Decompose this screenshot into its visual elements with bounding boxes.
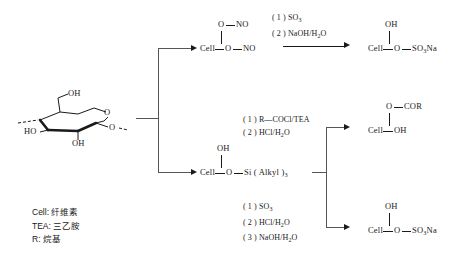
sulfate2-bond-o-so3na (402, 231, 411, 232)
cellulose-ester-product: O COR Cell OH (368, 102, 452, 138)
ester-cell-label: Cell (368, 126, 383, 135)
sulfate2-chain-o: O (394, 226, 400, 235)
sulfation-reagent-3: ( 3 ) NaOH/H2O (243, 231, 297, 247)
silyl-branch-bottom-arm (326, 227, 345, 228)
legend-item-cell: Cell: 纤维素 (32, 206, 80, 220)
branch-stem (158, 48, 159, 172)
arrowhead-to-ester (344, 124, 350, 130)
arrowhead-to-sulfate-top (344, 42, 350, 48)
branch-top-arm (158, 48, 192, 49)
nitration-reagents: ( 1 ) SO3 ( 2 ) NaOH/H2O (272, 11, 326, 42)
legend: Cell: 纤维素 TEA: 三乙胺 R: 烷基 (32, 206, 80, 247)
sulfation-reagent-1-num: ( 1 ) (243, 202, 257, 211)
acylation-reagent-2-num: ( 2 ) (243, 128, 257, 137)
nitrate-top-o: O (218, 20, 224, 29)
silyl-chain-o: O (226, 168, 232, 177)
branch-stub (136, 118, 158, 119)
branch-bottom-arm (158, 172, 192, 173)
silyl-group: Si ( Alkyl )3 (244, 168, 288, 178)
silyl-bond-cell-o (215, 173, 225, 174)
sulfate-bond-o-so3na (402, 49, 411, 50)
legend-item-r: R: 烷基 (32, 233, 80, 247)
ring-oxygen-label: O (104, 108, 110, 117)
sulfate2-bond-cell-o (383, 231, 393, 232)
arrowhead-to-silyl (191, 169, 197, 175)
arrowhead-to-nitrate (191, 45, 197, 51)
silyl-branch-top-arm (326, 127, 345, 128)
nitrate-bond-o-no (233, 49, 242, 50)
nitrate-vertical-bond (221, 31, 222, 44)
ester-top-bond (394, 107, 403, 108)
hydroxymethyl-label: OH (68, 89, 81, 98)
sulfate-vertical-bond (389, 31, 390, 44)
silyl-branch-stub (312, 172, 326, 173)
silyl-top-oh: OH (217, 144, 230, 153)
nitrate-top-no: NO (236, 20, 249, 29)
nitrate-chain-no: NO (243, 44, 256, 53)
nitration-reagent-2-formula: NaOH/H2O (288, 29, 326, 38)
silyl-cell-label: Cell (200, 168, 215, 177)
sulfation-reagents: ( 1 ) SO3 ( 2 ) HCl/H2O ( 3 ) NaOH/H2O (243, 200, 297, 247)
sulfate2-vertical-bond (389, 213, 390, 226)
glycosidic-oxygen-label: O (109, 123, 115, 132)
sulfate2-terminal: SO3Na (412, 226, 437, 236)
ester-top-o: O (386, 102, 392, 111)
silyl-intermediate: OH Cell O Si ( Alkyl )3 (200, 144, 312, 180)
nitration-reagent-1-num: ( 1 ) (272, 13, 286, 22)
sulfation-reagent-2-num: ( 2 ) (243, 218, 257, 227)
nitration-reagent-1: ( 1 ) SO3 (272, 11, 326, 27)
cellulose-sulfate-product-bottom: OH Cell O SO3Na (368, 202, 452, 238)
sulfate-terminal: SO3Na (412, 44, 437, 54)
ester-bond-cell-oh (383, 131, 393, 132)
ester-top-cor: COR (404, 102, 422, 111)
silyl-vertical-bond (221, 155, 222, 168)
sulfate-cell-label: Cell (368, 44, 383, 53)
reaction-scheme-diagram: OH O HO OH O O NO Cell O NO ( 1 ) SO3 ( (0, 0, 456, 266)
sulfate2-top-oh: OH (385, 202, 398, 211)
sulfation-reagent-2: ( 2 ) HCl/H2O (243, 216, 297, 232)
acylation-reagent-2-formula: HCl/H2O (259, 128, 290, 137)
cellulose-nitrate-intermediate: O NO Cell O NO (200, 20, 274, 56)
ester-terminal-oh: OH (394, 126, 407, 135)
sulfation-reagent-3-formula: NaOH/H2O (259, 233, 297, 242)
nitrate-cell-label: Cell (200, 44, 215, 53)
sulfation-reagent-1-formula: SO3 (259, 202, 273, 211)
sulfation-reagent-2-formula: HCl/H2O (259, 218, 290, 227)
acylation-reagent-2: ( 2 ) HCl/H2O (243, 126, 310, 142)
sulfate-chain-o: O (394, 44, 400, 53)
acylation-reagents: ( 1 ) R—COCl/TEA ( 2 ) HCl/H2O (243, 113, 310, 142)
cellulose-structure: OH O HO OH O (16, 90, 146, 150)
sulfate2-cell-label: Cell (368, 226, 383, 235)
acylation-reagent-1: ( 1 ) R—COCl/TEA (243, 113, 310, 126)
nitrate-bond-cell-o (215, 49, 224, 50)
sulfate-top-oh: OH (385, 20, 398, 29)
sulfate-bond-cell-o (383, 49, 393, 50)
c2-hydroxyl-label: OH (72, 139, 85, 148)
nitrate-top-bond (226, 25, 235, 26)
nitrate-chain-o: O (225, 44, 231, 53)
acylation-reagent-1-num: ( 1 ) (243, 115, 257, 124)
ester-vertical-bond (389, 113, 390, 126)
cellulose-sulfate-product-top: OH Cell O SO3Na (368, 20, 452, 56)
sulfation-reagent-3-num: ( 3 ) (243, 233, 257, 242)
nitration-reagent-1-formula: SO3 (288, 13, 302, 22)
legend-item-tea: TEA: 三乙胺 (32, 220, 80, 234)
acylation-reagent-1-formula: R—COCl/TEA (259, 115, 310, 124)
c3-hydroxyl-label: HO (24, 127, 37, 136)
silyl-bond-o-si (234, 173, 243, 174)
arrow-shaft-nitrate-to-sulfate (283, 46, 345, 47)
silyl-branch-stem (326, 127, 327, 227)
nitration-reagent-2: ( 2 ) NaOH/H2O (272, 27, 326, 43)
nitration-reagent-2-num: ( 2 ) (272, 29, 286, 38)
sulfation-reagent-1: ( 1 ) SO3 (243, 200, 297, 216)
arrowhead-to-sulfate-bottom (344, 224, 350, 230)
